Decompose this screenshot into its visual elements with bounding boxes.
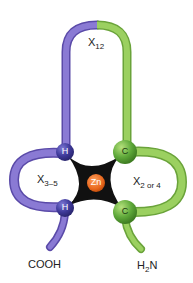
- zinc-finger-diagram: H H C C Zn X12 X3–5 X2 or 4 COOH H2N: [0, 0, 193, 283]
- zinc-label: Zn: [87, 178, 105, 187]
- c-terminus-label: COOH: [28, 259, 61, 270]
- his-upper-label: H: [59, 147, 71, 156]
- his-lower-label: H: [59, 203, 71, 212]
- n-terminus-label: H2N: [137, 260, 157, 274]
- cys-lower-label: C: [119, 207, 131, 216]
- cys-upper-label: C: [119, 147, 131, 156]
- top-loop-label: X12: [88, 37, 104, 51]
- left-loop-label: X3–5: [37, 174, 58, 188]
- right-loop-label: X2 or 4: [133, 176, 161, 190]
